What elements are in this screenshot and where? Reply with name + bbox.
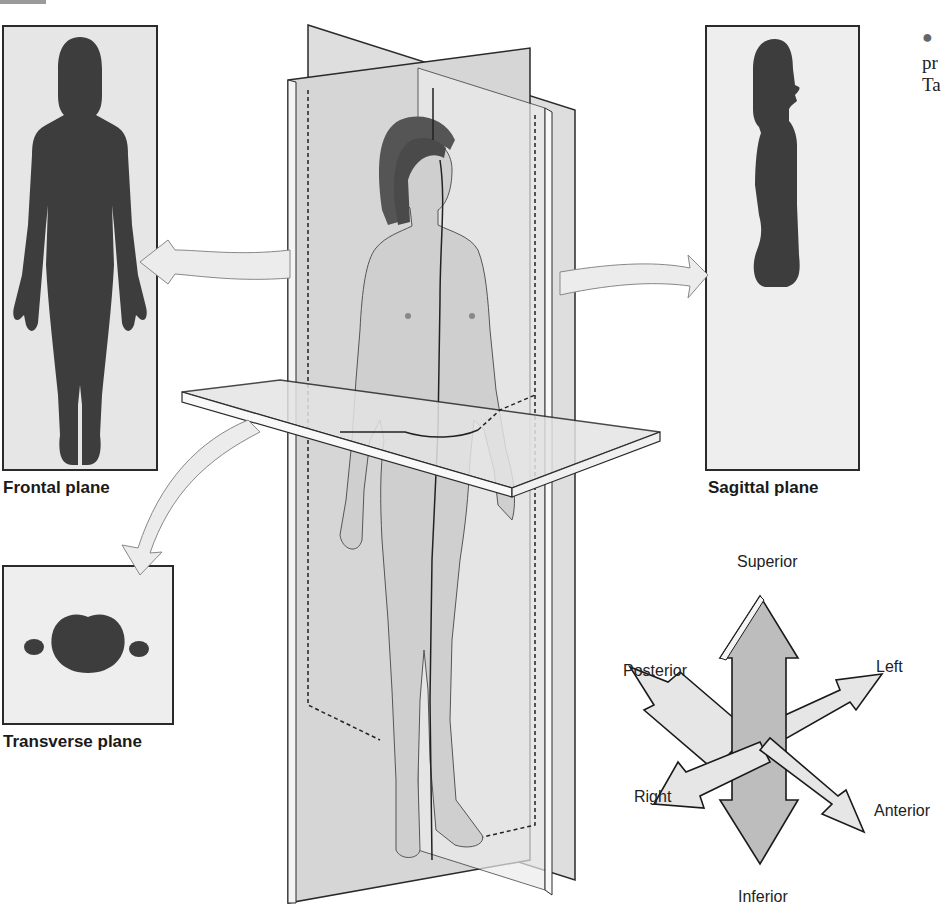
direction-label-left: Left	[876, 658, 903, 676]
direction-label-right: Right	[634, 788, 671, 806]
side-text-bullet: ●	[922, 26, 933, 48]
directional-compass-icon	[620, 582, 920, 882]
direction-label-inferior: Inferior	[738, 888, 788, 906]
direction-label-superior: Superior	[737, 553, 797, 571]
direction-label-anterior: Anterior	[874, 802, 930, 820]
side-text-line2: Ta	[922, 74, 941, 96]
direction-label-posterior: Posterior	[623, 662, 687, 680]
side-text-line1: pr	[922, 52, 938, 74]
